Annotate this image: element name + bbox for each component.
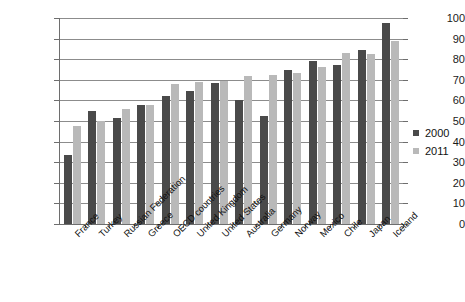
- bar-2000-russian-federation: [113, 118, 121, 224]
- bar-2000-greece: [137, 105, 145, 224]
- gridline: [60, 100, 403, 101]
- gridline: [60, 121, 403, 122]
- gridline: [60, 39, 403, 40]
- legend-swatch-2000-icon: [413, 130, 419, 136]
- y-axis-tick-mark-right: [403, 18, 408, 19]
- gridline: [60, 183, 403, 184]
- y-axis-tick-mark-right: [403, 162, 408, 163]
- y-axis-tick-mark-right: [403, 100, 408, 101]
- legend-item[interactable]: 2011: [413, 142, 463, 160]
- bar-2011-iceland: [391, 41, 399, 224]
- bar-2011-france: [73, 126, 81, 224]
- bar-2011-japan: [367, 54, 375, 224]
- legend-swatch-2011-icon: [413, 148, 419, 154]
- legend-item[interactable]: 2000: [413, 124, 463, 142]
- gridline: [60, 80, 403, 81]
- bar-2011-chile: [342, 53, 350, 224]
- y-axis-tick-label: 20: [413, 178, 465, 189]
- y-axis-tick-mark: [54, 203, 59, 204]
- y-axis-tick-mark: [54, 18, 59, 19]
- bar-2011-norway: [293, 73, 301, 224]
- y-axis-line: [59, 18, 60, 225]
- y-axis-tick-mark: [54, 100, 59, 101]
- legend-label-2000: 2000: [425, 128, 449, 139]
- bar-chart: 0102030405060708090100 FranceTurkeyRussi…: [0, 0, 465, 302]
- y-axis-tick-mark: [54, 162, 59, 163]
- gridline: [60, 162, 403, 163]
- y-axis-tick-label: 10: [413, 198, 465, 209]
- bar-2011-oecd-countries: [171, 84, 179, 224]
- gridline: [60, 18, 403, 19]
- bar-2000-iceland: [382, 23, 390, 224]
- y-axis-tick-mark-right: [403, 39, 408, 40]
- bar-2011-turkey: [97, 121, 105, 224]
- y-axis-tick-mark-right: [403, 203, 408, 204]
- bar-2011-russian-federation: [122, 109, 130, 224]
- y-axis-tick-mark: [54, 183, 59, 184]
- y-axis-tick-mark: [54, 142, 59, 143]
- chart-legend: 2000 2011: [413, 124, 463, 160]
- y-axis-tick-label: 90: [413, 34, 465, 45]
- gridline: [60, 142, 403, 143]
- y-axis-tick-mark-right: [403, 142, 408, 143]
- gridline: [60, 59, 403, 60]
- y-axis-tick-mark: [54, 121, 59, 122]
- y-axis-tick-mark: [54, 59, 59, 60]
- y-axis-tick-label: 100: [413, 13, 465, 24]
- y-axis-tick-label: 0: [413, 219, 465, 230]
- bar-2011-germany: [269, 75, 277, 224]
- y-axis-tick-mark-right: [403, 183, 408, 184]
- bar-2000-france: [64, 155, 72, 224]
- bar-2011-mexico: [318, 67, 326, 224]
- bar-2000-australia: [235, 100, 243, 224]
- y-axis-tick-label: 60: [413, 95, 465, 106]
- legend-label-2011: 2011: [425, 146, 449, 157]
- y-axis-tick-mark: [54, 80, 59, 81]
- y-axis-tick-label: 70: [413, 75, 465, 86]
- bar-2000-mexico: [309, 61, 317, 224]
- bar-2000-chile: [333, 65, 341, 224]
- y-axis-tick-mark-right: [403, 59, 408, 60]
- bar-2000-japan: [358, 50, 366, 224]
- bar-2000-turkey: [88, 111, 96, 224]
- y-axis-tick-mark-right: [403, 121, 408, 122]
- y-axis-tick-mark: [54, 224, 59, 225]
- y-axis-tick-mark: [54, 39, 59, 40]
- y-axis-tick-mark-right: [403, 80, 408, 81]
- y-axis-tick-label: 80: [413, 54, 465, 65]
- bar-2000-norway: [284, 70, 292, 225]
- bar-2000-united-kingdom: [186, 91, 194, 224]
